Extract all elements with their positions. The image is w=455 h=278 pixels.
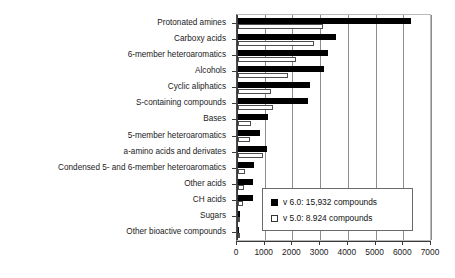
gridline-7000	[431, 15, 432, 240]
x-tick-label-0: 0	[234, 247, 239, 257]
bar-v6-11	[238, 195, 253, 201]
x-tick-6000	[402, 241, 403, 245]
x-tick-label-5000: 5000	[365, 247, 384, 257]
x-tick-2000	[291, 241, 292, 245]
bar-v5-9	[238, 169, 245, 174]
bar-v5-1	[238, 41, 314, 46]
bar-v5-12	[238, 217, 240, 222]
bar-v5-5	[238, 105, 273, 110]
y-axis-label-10: Other acids	[184, 179, 226, 188]
bar-v6-12	[238, 211, 240, 217]
y-axis-label-1: Carboxy acids	[174, 34, 226, 43]
x-tick-0	[236, 241, 237, 245]
legend-item-v5: v 5.0: 8.924 compounds	[271, 210, 412, 226]
bar-v5-6	[238, 121, 251, 126]
bar-v5-13	[238, 233, 240, 238]
x-tick-3000	[319, 241, 320, 245]
y-axis-label-4: Cyclic aliphatics	[168, 82, 226, 91]
y-axis-label-7: 5-member heteroaromatics	[128, 131, 226, 140]
y-axis-label-11: CH acids	[193, 195, 226, 204]
x-tick-label-4000: 4000	[338, 247, 357, 257]
bar-v6-6	[238, 114, 268, 120]
y-axis-label-9: Condensed 5- and 6-member heteroaromatic…	[58, 163, 226, 172]
bar-v6-8	[238, 146, 267, 152]
bar-v6-3	[238, 66, 324, 72]
x-tick-label-1000: 1000	[254, 247, 273, 257]
legend-label-v6: v 6.0: 15,932 compounds	[283, 197, 377, 207]
y-axis-label-3: Alcohols	[195, 66, 226, 75]
bar-chart: Protonated aminesCarboxy acids6-member h…	[0, 0, 455, 278]
x-tick-label-7000: 7000	[421, 247, 440, 257]
chart-legend: v 6.0: 15,932 compounds v 5.0: 8.924 com…	[262, 188, 413, 231]
bar-v5-10	[238, 185, 244, 190]
y-axis-label-2: 6-member heteroaromatics	[128, 50, 226, 59]
bar-v6-2	[238, 50, 328, 56]
bar-v5-11	[238, 201, 243, 206]
y-axis-label-12: Sugars	[200, 211, 226, 220]
bar-v5-8	[238, 153, 263, 158]
bar-v5-7	[238, 137, 250, 142]
bar-v6-10	[238, 179, 253, 185]
x-tick-1000	[264, 241, 265, 245]
y-axis-category-labels: Protonated aminesCarboxy acids6-member h…	[0, 0, 231, 278]
legend-item-v6: v 6.0: 15,932 compounds	[271, 194, 412, 210]
bar-v5-2	[238, 57, 296, 62]
bar-v6-13	[238, 227, 239, 233]
x-tick-label-2000: 2000	[282, 247, 301, 257]
legend-label-v5: v 5.0: 8.924 compounds	[283, 213, 372, 223]
x-tick-label-3000: 3000	[310, 247, 329, 257]
bar-v5-0	[238, 24, 323, 29]
x-tick-4000	[347, 241, 348, 245]
y-axis-line	[237, 15, 238, 240]
x-tick-label-6000: 6000	[393, 247, 412, 257]
legend-swatch-open-square-icon	[271, 215, 278, 222]
y-axis-label-0: Protonated amines	[157, 18, 226, 27]
bar-v6-9	[238, 162, 254, 168]
bar-v6-4	[238, 82, 310, 88]
y-axis-label-6: Bases	[203, 114, 226, 123]
bar-v6-5	[238, 98, 308, 104]
bar-v6-0	[238, 18, 411, 24]
bar-v5-3	[238, 73, 288, 78]
bar-v6-1	[238, 34, 336, 40]
bar-v5-4	[238, 89, 271, 94]
bar-v6-7	[238, 130, 260, 136]
y-axis-label-13: Other bioactive compounds	[126, 227, 226, 236]
x-tick-5000	[375, 241, 376, 245]
x-tick-7000	[430, 241, 431, 245]
legend-swatch-filled-square-icon	[271, 199, 278, 206]
y-axis-label-5: S-containing compounds	[136, 98, 226, 107]
y-axis-label-8: a-amino acids and derivates	[124, 147, 226, 156]
